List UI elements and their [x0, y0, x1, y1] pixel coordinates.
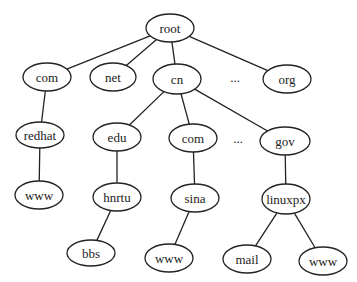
node-label: hnrtu	[103, 190, 131, 205]
node-net: net	[90, 63, 136, 91]
node-label: root	[160, 21, 181, 36]
node-label: gov	[275, 134, 295, 149]
more-siblings-ellipsis: ...	[230, 70, 240, 85]
node-root: root	[146, 14, 194, 42]
node-label: linuxpx	[266, 192, 306, 207]
node-label: mail	[235, 252, 258, 267]
edge-linuxpx-www3	[294, 213, 315, 248]
node-label: com	[36, 70, 58, 85]
node-cn: cn	[153, 64, 201, 94]
node-label: www	[155, 251, 184, 266]
node-mail: mail	[223, 245, 271, 273]
node-www1: www	[15, 181, 63, 209]
dns-tree-diagram: rootcomnetcnorgredhateducomgovwwwhnrtusi…	[0, 0, 357, 282]
node-label: www	[309, 254, 338, 269]
node-bbs: bbs	[67, 240, 115, 266]
edge-sina-www2	[175, 212, 189, 245]
ellipsis-group: ......	[230, 70, 243, 146]
edge-com-redhat	[42, 91, 46, 122]
node-linuxpx: linuxpx	[262, 184, 310, 214]
edge-com2-sina	[193, 152, 194, 184]
edge-cn-gov	[195, 89, 268, 131]
node-sina: sina	[171, 184, 219, 212]
edge-cn-edu	[129, 92, 164, 125]
node-label: www	[25, 188, 54, 203]
node-www2: www	[145, 244, 193, 272]
node-label: org	[278, 72, 296, 87]
node-label: redhat	[24, 128, 57, 143]
more-siblings-ellipsis: ...	[233, 131, 243, 146]
edge-root-cn	[172, 42, 175, 64]
node-label: sina	[185, 191, 206, 206]
node-org: org	[263, 65, 311, 93]
edge-hnrtu-bbs	[97, 211, 111, 241]
node-label: edu	[108, 130, 127, 145]
edge-root-org	[189, 36, 268, 70]
node-label: net	[105, 70, 121, 85]
node-com2: com	[169, 124, 217, 152]
node-hnrtu: hnrtu	[93, 183, 141, 211]
edge-gov-linuxpx	[285, 155, 286, 184]
nodes-group: rootcomnetcnorgredhateducomgovwwwhnrtusi…	[15, 14, 347, 275]
node-com: com	[23, 63, 71, 91]
node-label: bbs	[82, 246, 100, 261]
node-www3: www	[299, 247, 347, 275]
node-edu: edu	[93, 123, 141, 151]
node-label: cn	[171, 72, 184, 87]
node-redhat: redhat	[16, 122, 64, 148]
node-gov: gov	[260, 127, 310, 155]
edge-linuxpx-mail	[256, 213, 277, 246]
edge-redhat-www1	[39, 148, 40, 181]
node-label: com	[182, 131, 204, 146]
edge-cn-com2	[181, 94, 189, 124]
